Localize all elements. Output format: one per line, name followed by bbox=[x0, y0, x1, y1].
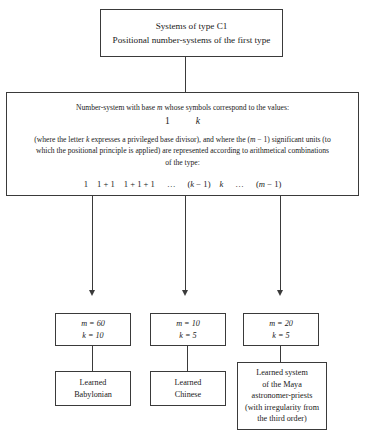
symbol-values-row: 1k bbox=[165, 115, 200, 126]
branch-arrow-line-1 bbox=[185, 196, 186, 290]
diagram-canvas: Systems of type C1 Positional number-sys… bbox=[0, 0, 365, 436]
connector-title-to-description bbox=[185, 57, 186, 97]
connector-param-to-result-1 bbox=[187, 346, 188, 371]
parameter-box-babylonian: m = 60 k = 10 bbox=[55, 313, 131, 346]
parameter-k-value: k = 10 bbox=[82, 330, 103, 342]
result-line: Learned bbox=[80, 377, 107, 389]
symbol-value-right: k bbox=[196, 115, 200, 126]
parameter-m-value: m = 20 bbox=[269, 318, 293, 330]
formula-term-5: k bbox=[220, 179, 224, 189]
parameter-m-value: m = 60 bbox=[81, 318, 105, 330]
branch-arrow-line-0 bbox=[92, 196, 93, 290]
connector-param-to-result-0 bbox=[92, 346, 93, 371]
title-box-line-1: Systems of type C1 bbox=[156, 19, 228, 33]
result-line: (with irregularity from bbox=[245, 402, 319, 414]
branch-arrowhead-2 bbox=[277, 290, 283, 296]
result-line: of the Maya bbox=[262, 379, 302, 391]
result-line: Babylonian bbox=[74, 389, 112, 401]
parameter-box-chinese: m = 10 k = 5 bbox=[150, 313, 226, 346]
result-box-chinese: Learned Chinese bbox=[150, 371, 226, 406]
result-line: Learned bbox=[175, 377, 202, 389]
title-box: Systems of type C1 Positional number-sys… bbox=[100, 9, 283, 57]
branch-arrowhead-0 bbox=[89, 290, 95, 296]
result-line: Chinese bbox=[175, 389, 201, 401]
connector-param-to-result-2 bbox=[280, 346, 281, 362]
description-lead: Number-system with base m whose symbols … bbox=[76, 102, 289, 113]
parameter-m-value: m = 10 bbox=[176, 318, 200, 330]
formula-term-7: (m − 1) bbox=[256, 179, 281, 189]
formula-term-2: 1 + 1 + 1 bbox=[124, 179, 155, 189]
description-box: Number-system with base m whose symbols … bbox=[6, 92, 359, 196]
formula-term-3: … bbox=[167, 179, 176, 189]
symbol-value-left: 1 bbox=[165, 115, 170, 126]
description-lead-text: Number-system with base m whose symbols … bbox=[76, 103, 289, 112]
branch-arrow-line-2 bbox=[280, 196, 281, 290]
parameter-k-value: k = 5 bbox=[272, 330, 289, 342]
parameter-box-maya: m = 20 k = 5 bbox=[243, 313, 319, 346]
formula-row: 11 + 11 + 1 + 1…(k − 1)k…(m − 1) bbox=[84, 179, 282, 190]
formula-term-4: (k − 1) bbox=[187, 179, 210, 189]
branch-arrowhead-1 bbox=[182, 290, 188, 296]
description-paragraph: (where the letter k expresses a privileg… bbox=[33, 134, 333, 168]
result-box-maya: Learned system of the Maya astronomer-pr… bbox=[237, 362, 327, 430]
result-line: Learned system bbox=[256, 367, 308, 379]
result-box-babylonian: Learned Babylonian bbox=[55, 371, 131, 406]
formula-term-1: 1 + 1 bbox=[97, 179, 115, 189]
formula-term-6: … bbox=[235, 179, 244, 189]
result-line: astronomer-priests bbox=[252, 390, 313, 402]
result-line: the third order) bbox=[257, 413, 307, 425]
title-box-line-2: Positional number-systems of the first t… bbox=[113, 33, 271, 47]
parameter-k-value: k = 5 bbox=[179, 330, 196, 342]
formula-term-0: 1 bbox=[84, 179, 88, 189]
